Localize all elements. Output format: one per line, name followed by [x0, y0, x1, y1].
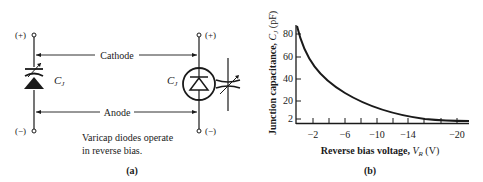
right-bottom-terminal — [197, 129, 201, 133]
right-top-terminal — [197, 33, 201, 37]
anode-label: Anode — [104, 107, 131, 118]
y-tick-label: 80 — [283, 28, 293, 39]
cathode-arrow-left-icon — [36, 53, 41, 57]
left-top-terminal — [32, 33, 36, 37]
cathode-label: Cathode — [100, 50, 134, 61]
right-cj-label: CJ — [167, 74, 178, 88]
panel-b-label: (b) — [364, 165, 376, 177]
capacitance-curve — [297, 26, 469, 121]
left-top-terminal-label: (+) — [15, 30, 26, 40]
figure: (+) (−) CJ Cathode Anode (+) (−) — [0, 0, 483, 182]
x-axis-label: Reverse bias voltage, VR (V) — [321, 145, 439, 158]
y-axis-label: Junction capacitance, CJ (pF) — [267, 11, 280, 135]
varicap-diode-circle-icon — [183, 68, 215, 100]
y-ticks — [296, 34, 301, 119]
cathode-arrow-right-icon — [192, 53, 197, 57]
x-tick-label: −2 — [308, 129, 319, 140]
panel-b-chart: 80 60 40 20 2 −2 −6 −10 −14 −20 Junction… — [267, 11, 469, 177]
y-tick-label: 40 — [283, 73, 293, 84]
panel-a-label: (a) — [126, 165, 138, 177]
right-top-terminal-label: (+) — [205, 30, 216, 40]
left-bottom-terminal-label: (−) — [15, 126, 26, 136]
anode-arrow-right-icon — [192, 110, 197, 114]
x-tick-label: −20 — [449, 129, 465, 140]
y-tick-label: 2 — [288, 113, 293, 124]
x-tick-label: −6 — [340, 129, 351, 140]
left-cj-label: CJ — [54, 74, 65, 88]
left-bottom-terminal — [32, 129, 36, 133]
x-tick-label: −10 — [369, 129, 385, 140]
anode-arrow-left-icon — [36, 110, 41, 114]
caption-line-1: Varicap diodes operate — [82, 132, 174, 143]
y-tick-label: 60 — [283, 51, 293, 62]
variable-capacitor-icon — [216, 58, 240, 111]
x-tick-label: −14 — [400, 129, 416, 140]
y-tick-label: 20 — [283, 95, 293, 106]
panel-a: (+) (−) CJ Cathode Anode (+) (−) — [15, 30, 240, 177]
right-bottom-terminal-label: (−) — [205, 126, 216, 136]
caption-line-2: in reverse bias. — [82, 145, 142, 156]
